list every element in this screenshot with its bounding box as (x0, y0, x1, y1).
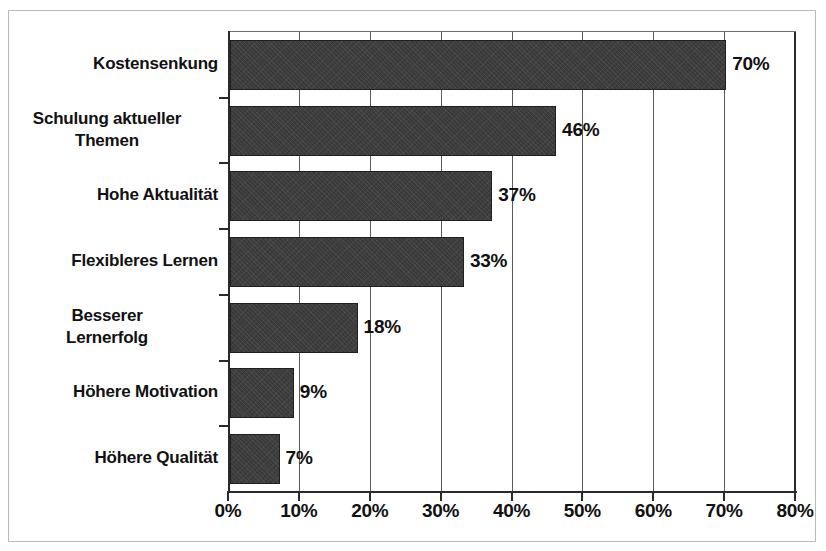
x-axis-tick-label: 10% (264, 500, 334, 522)
x-axis-line (227, 491, 797, 493)
category-label: Flexibleres Lernen (0, 250, 218, 272)
category-label: Höhere Qualität (0, 447, 218, 469)
x-axis-tick-label: 70% (689, 500, 759, 522)
x-axis-tick-label: 20% (335, 500, 405, 522)
bar (230, 237, 464, 287)
plot-top-border (228, 31, 796, 32)
bar-value-label: 37% (498, 184, 535, 206)
bar (230, 171, 492, 221)
bar (230, 434, 280, 484)
y-axis-tick (219, 425, 228, 427)
gridline (794, 32, 796, 492)
y-axis-tick (219, 97, 228, 99)
bar-value-label: 46% (562, 119, 599, 141)
y-axis-tick (219, 162, 228, 164)
bar-value-label: 7% (286, 447, 313, 469)
x-axis-tick-label: 80% (760, 500, 826, 522)
gridline (582, 32, 583, 492)
bar (230, 303, 358, 353)
gridline (653, 32, 654, 492)
category-label: Besserer Lernerfolg (0, 305, 218, 349)
gridline (724, 32, 725, 492)
gridline (512, 32, 513, 492)
x-axis-tick-label: 30% (406, 500, 476, 522)
bar-chart-figure: 70%46%37%33%18%9%7% KostensenkungSchulun… (0, 0, 826, 551)
category-label: Kostensenkung (0, 53, 218, 75)
category-label: Hohe Aktualität (0, 184, 218, 206)
category-label: Höhere Motivation (0, 381, 218, 403)
x-axis-tick-label: 0% (193, 500, 263, 522)
x-axis-tick-label: 50% (547, 500, 617, 522)
bar-value-label: 18% (364, 316, 401, 338)
y-axis-tick (219, 294, 228, 296)
y-axis-tick (219, 360, 228, 362)
x-axis-tick-label: 60% (618, 500, 688, 522)
bar-value-label: 33% (470, 250, 507, 272)
y-axis-tick (219, 228, 228, 230)
bar-value-label: 70% (732, 53, 769, 75)
bar (230, 368, 294, 418)
category-label: Schulung aktueller Themen (0, 108, 218, 152)
bar (230, 106, 556, 156)
bar-value-label: 9% (300, 381, 327, 403)
bar (230, 40, 726, 90)
x-axis-tick-label: 40% (477, 500, 547, 522)
